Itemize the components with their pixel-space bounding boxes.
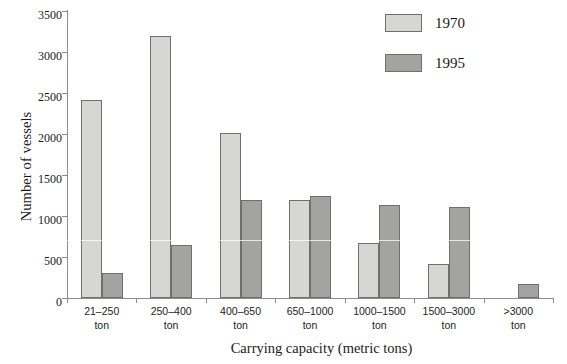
y-tick bbox=[62, 134, 67, 135]
x-axis-title-text: Carrying capacity (metric tons) bbox=[231, 340, 413, 356]
x-category-label: 250–400ton bbox=[136, 305, 205, 332]
x-tick bbox=[67, 298, 68, 303]
y-tick bbox=[62, 93, 67, 94]
y-tick-label: 500 bbox=[15, 261, 62, 262]
legend-label-1995: 1995 bbox=[435, 54, 465, 72]
y-tick bbox=[62, 11, 67, 12]
bar-1970-1000–1500 bbox=[358, 243, 379, 298]
legend-swatch-1970 bbox=[385, 14, 422, 32]
x-tick bbox=[206, 298, 207, 303]
x-category-label: >3000ton bbox=[484, 305, 553, 332]
bar-1995-400–650 bbox=[241, 200, 262, 298]
y-axis-line bbox=[67, 10, 68, 299]
y-tick bbox=[62, 52, 67, 53]
bar-1995-650–1000 bbox=[310, 196, 331, 299]
y-tick-label: 1500 bbox=[15, 179, 62, 180]
y-tick-label: 3500 bbox=[15, 15, 62, 16]
x-category-label: 1500–3000ton bbox=[414, 305, 483, 332]
bar-chart: Number of vessels 0500100015002000250030… bbox=[0, 0, 567, 364]
x-tick bbox=[484, 298, 485, 303]
bar-1970-400–650 bbox=[220, 133, 241, 298]
x-category-label: 21–250ton bbox=[67, 305, 136, 332]
y-tick-label: 0 bbox=[15, 302, 62, 303]
y-tick-label: 3000 bbox=[15, 56, 62, 57]
legend-label-1970: 1970 bbox=[435, 14, 465, 32]
x-tick bbox=[136, 298, 137, 303]
y-tick-label: 1000 bbox=[15, 220, 62, 221]
y-tick bbox=[62, 216, 67, 217]
x-category-label: 650–1000ton bbox=[275, 305, 344, 332]
bar-1970-21–250 bbox=[81, 100, 102, 298]
y-tick-label: 2500 bbox=[15, 97, 62, 98]
y-tick bbox=[62, 175, 67, 176]
bar-1970-650–1000 bbox=[289, 200, 310, 298]
bar-1995->3000 bbox=[518, 284, 539, 298]
legend-swatch-1995 bbox=[385, 54, 422, 72]
x-category-label: 400–650ton bbox=[206, 305, 275, 332]
x-tick bbox=[414, 298, 415, 303]
bar-1995-21–250 bbox=[102, 273, 123, 298]
plot-area: 0500100015002000250030003500 21–250ton25… bbox=[67, 11, 553, 298]
x-tick bbox=[553, 298, 554, 303]
bar-1995-1500–3000 bbox=[449, 207, 470, 298]
bar-1970-1500–3000 bbox=[428, 264, 449, 298]
x-axis-line bbox=[67, 298, 554, 299]
y-tick bbox=[62, 257, 67, 258]
bar-1970-250–400 bbox=[150, 36, 171, 298]
y-tick-label: 2000 bbox=[15, 138, 62, 139]
x-axis-title: Carrying capacity (metric tons) bbox=[0, 340, 567, 357]
x-tick bbox=[275, 298, 276, 303]
x-tick bbox=[345, 298, 346, 303]
bar-1995-1000–1500 bbox=[379, 205, 400, 298]
x-category-label: 1000–1500ton bbox=[345, 305, 414, 332]
bar-1995-250–400 bbox=[171, 245, 192, 298]
